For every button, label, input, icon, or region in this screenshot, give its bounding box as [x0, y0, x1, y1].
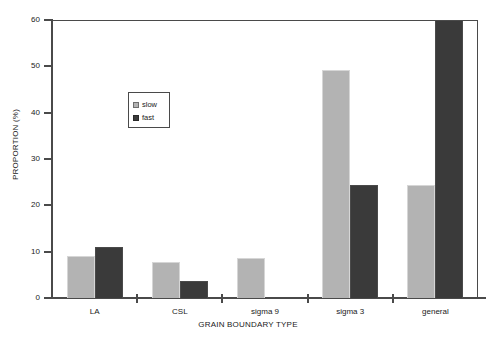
bar-sigma-9-slow [237, 258, 265, 298]
y-axis-tick-label-wrap: 40 [16, 109, 40, 117]
bar-CSL-slow [152, 262, 180, 298]
bar-general-fast [435, 20, 463, 298]
y-axis-tick [44, 19, 52, 21]
legend-item-fast: fast [133, 111, 169, 124]
y-axis-title: PROPORTION (%) [11, 85, 20, 205]
y-axis-tick [44, 158, 52, 160]
bar-general-slow [407, 185, 435, 298]
bar-chart: 0102030405060 PROPORTION (%) LACSLsigma … [0, 0, 496, 342]
y-axis-tick-label-wrap: 10 [16, 248, 40, 256]
y-axis-tick-label: 50 [16, 62, 40, 70]
y-axis-tick-label-wrap: 30 [16, 155, 40, 163]
y-axis-tick-label: 20 [16, 201, 40, 209]
bars-layer [52, 20, 478, 298]
chart-legend: slow fast [128, 92, 170, 128]
x-axis-tick-label: sigma 9 [220, 307, 310, 316]
y-axis-tick-label-wrap: 50 [16, 62, 40, 70]
y-axis-tick-label-wrap: 20 [16, 201, 40, 209]
y-axis-tick [44, 297, 52, 299]
bar-sigma-3-fast [350, 185, 378, 298]
y-axis-tick [44, 251, 52, 253]
legend-swatch-fast-icon [133, 115, 139, 121]
y-axis-tick [44, 65, 52, 67]
y-axis-tick-label: 0 [16, 294, 40, 302]
x-axis-tick-label: CSL [135, 307, 225, 316]
legend-label-fast: fast [142, 114, 154, 122]
bar-sigma-3-slow [322, 70, 350, 298]
y-axis-tick [44, 112, 52, 114]
legend-label-slow: slow [142, 101, 157, 109]
bar-CSL-fast [180, 281, 208, 298]
y-axis-tick-label: 60 [16, 16, 40, 24]
x-axis-title: GRAIN BOUNDARY TYPE [0, 320, 496, 329]
x-axis-tick-label: LA [50, 307, 140, 316]
x-axis-tick-label: sigma 3 [305, 307, 395, 316]
y-axis-tick-label: 30 [16, 155, 40, 163]
y-axis-tick-label: 10 [16, 248, 40, 256]
y-axis-tick [44, 204, 52, 206]
y-axis-tick-label-wrap: 0 [16, 294, 40, 302]
bar-LA-slow [67, 256, 95, 298]
y-axis-tick-label: 40 [16, 109, 40, 117]
legend-item-slow: slow [133, 98, 169, 111]
legend-swatch-slow-icon [133, 102, 139, 108]
x-axis-tick-label: general [390, 307, 480, 316]
bar-LA-fast [95, 247, 123, 298]
y-axis-tick-label-wrap: 60 [16, 16, 40, 24]
